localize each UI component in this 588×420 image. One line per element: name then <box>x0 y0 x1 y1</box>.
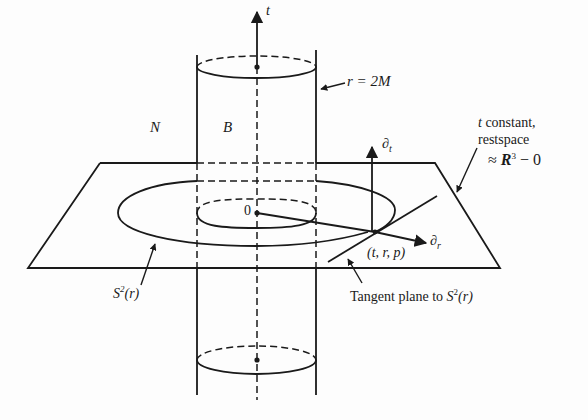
restspace-line2: restspace <box>478 133 541 147</box>
origin-dot <box>254 210 259 215</box>
partial-r-arrow <box>375 232 426 243</box>
region-N-label: N <box>150 120 160 135</box>
tangent-plane-label: Tangent plane to S2(r) <box>350 290 473 304</box>
restspace-label: t constant, restspace ≈ R3 − 0 <box>478 116 541 168</box>
partial-t-label: ∂t <box>382 137 392 151</box>
sphere-S2-label: S2(r) <box>113 287 139 301</box>
top-center-dot <box>254 64 259 69</box>
bottom-center-dot <box>254 357 259 362</box>
point-dot <box>373 230 378 235</box>
t-axis-label: t <box>266 4 270 18</box>
diagram-drawing <box>0 0 588 420</box>
origin-label: 0 <box>244 204 251 218</box>
restspace-line1: t constant, <box>478 116 541 130</box>
restspace-plane <box>28 163 500 268</box>
diagram-canvas: t r = 2M N B 0 ∂t ∂r (t, r, p) t constan… <box>0 0 588 420</box>
restspace-line3: ≈ R3 − 0 <box>488 152 541 168</box>
region-B-label: B <box>223 120 232 135</box>
partial-r-label: ∂r <box>430 234 441 248</box>
point-coordinates-label: (t, r, p) <box>367 246 405 260</box>
schwarzschild-radius-label: r = 2M <box>347 74 390 89</box>
